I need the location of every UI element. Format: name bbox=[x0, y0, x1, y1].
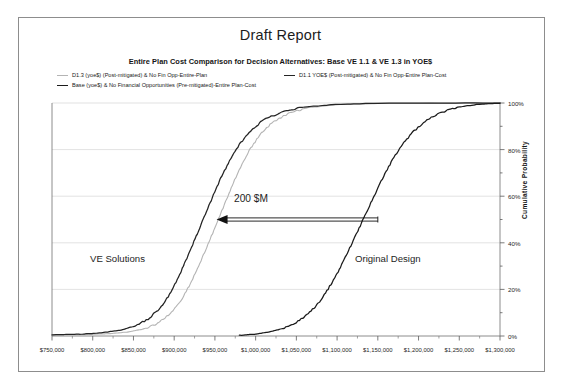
chart-page: Draft Report Entire Plan Cost Comparison… bbox=[0, 0, 561, 389]
y-axis-title: Cumulative Probability bbox=[521, 141, 528, 219]
y-tick-label: 80% bbox=[508, 146, 520, 153]
y-tick-label: 60% bbox=[508, 193, 520, 200]
y-axis-tick-labels: 0%20%40%60%80%100% bbox=[0, 0, 561, 389]
y-tick-label: 40% bbox=[508, 239, 520, 246]
y-tick-label: 0% bbox=[508, 333, 517, 340]
y-tick-label: 100% bbox=[508, 100, 524, 107]
y-tick-label: 20% bbox=[508, 286, 520, 293]
